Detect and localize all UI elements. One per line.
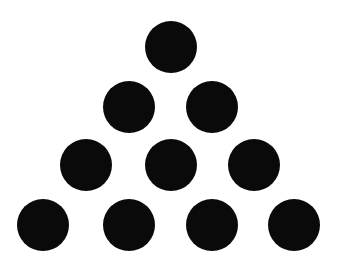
circle-dot-row4-4: [268, 199, 320, 251]
circle-dot-row3-1: [60, 139, 112, 191]
circle-dot-row1-1: [145, 21, 197, 73]
circle-dot-row3-2: [145, 139, 197, 191]
circle-dot-row2-2: [186, 81, 238, 133]
circle-dot-row4-2: [103, 199, 155, 251]
circle-dot-row2-1: [103, 81, 155, 133]
triangle-dot-figure: [0, 0, 344, 266]
circle-dot-row4-3: [186, 199, 238, 251]
circle-dot-row3-3: [228, 139, 280, 191]
circle-dot-row4-1: [17, 199, 69, 251]
